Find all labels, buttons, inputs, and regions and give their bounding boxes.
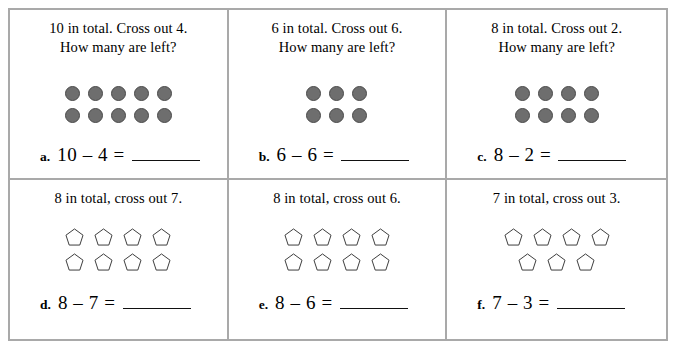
problem-prompt-f: 7 in total, cross out 3. (447, 180, 666, 208)
problem-label-a: a. (40, 149, 50, 165)
answer-blank-d[interactable] (123, 308, 191, 309)
answer-blank-b[interactable] (341, 160, 409, 161)
circle-counter[interactable] (515, 86, 530, 101)
pentagon-counter[interactable] (533, 228, 552, 246)
circle-counter[interactable] (515, 108, 530, 123)
equation-text-c: 8 – 2 = (494, 144, 552, 166)
pentagon-counter[interactable] (371, 228, 390, 246)
circle-counter[interactable] (329, 108, 344, 123)
problem-cell-d: 8 in total, cross out 7. d. 8 – (10, 180, 229, 339)
circle-counter[interactable] (561, 108, 576, 123)
shape-row (65, 253, 171, 271)
shape-group-c (447, 86, 666, 130)
pentagon-counter[interactable] (547, 253, 566, 271)
problem-grid: 10 in total. Cross out 4. How many are l… (10, 10, 666, 339)
pentagon-counter[interactable] (313, 253, 332, 271)
circle-counter[interactable] (538, 108, 553, 123)
pentagon-counter[interactable] (504, 228, 523, 246)
circle-counter[interactable] (134, 108, 149, 123)
circle-counter[interactable] (584, 108, 599, 123)
pentagon-counter[interactable] (518, 253, 537, 271)
equation-b: b. 6 – 6 = (229, 144, 446, 166)
equation-c: c. 8 – 2 = (447, 144, 666, 166)
answer-blank-a[interactable] (132, 160, 200, 161)
pentagon-counter[interactable] (342, 228, 361, 246)
shape-row (306, 86, 367, 101)
problem-cell-f: 7 in total, cross out 3. f. 7 – 3 = (447, 180, 666, 339)
prompt-line-1: 6 in total. Cross out 6. (272, 20, 403, 36)
shape-row (284, 253, 390, 271)
pentagon-counter[interactable] (94, 228, 113, 246)
pentagon-counter[interactable] (65, 228, 84, 246)
problem-prompt-e: 8 in total, cross out 6. (229, 180, 446, 208)
pentagon-counter[interactable] (123, 253, 142, 271)
equation-text-e: 8 – 6 = (275, 292, 333, 314)
pentagon-counter[interactable] (65, 253, 84, 271)
problem-label-e: e. (259, 297, 268, 313)
shape-group-a (10, 86, 227, 130)
shape-group-e (229, 228, 446, 278)
equation-text-a: 10 – 4 = (57, 144, 125, 166)
circle-counter[interactable] (538, 86, 553, 101)
shape-row (65, 228, 171, 246)
pentagon-counter[interactable] (371, 253, 390, 271)
equation-a: a. 10 – 4 = (10, 144, 227, 166)
answer-blank-e[interactable] (340, 308, 408, 309)
circle-counter[interactable] (157, 108, 172, 123)
circle-counter[interactable] (88, 86, 103, 101)
problem-label-d: d. (40, 297, 51, 313)
circle-counter[interactable] (111, 86, 126, 101)
equation-f: f. 7 – 3 = (447, 292, 666, 314)
prompt-line-1: 10 in total. Cross out 4. (49, 20, 187, 36)
prompt-line-1: 8 in total, cross out 7. (55, 190, 183, 206)
circle-counter[interactable] (134, 86, 149, 101)
circle-counter[interactable] (306, 108, 321, 123)
circle-counter[interactable] (584, 86, 599, 101)
prompt-line-1: 7 in total, cross out 3. (493, 190, 621, 206)
answer-blank-c[interactable] (558, 160, 626, 161)
circle-counter[interactable] (352, 86, 367, 101)
circle-counter[interactable] (306, 86, 321, 101)
pentagon-counter[interactable] (152, 253, 171, 271)
circle-counter[interactable] (111, 108, 126, 123)
pentagon-counter[interactable] (284, 253, 303, 271)
prompt-line-1: 8 in total. Cross out 2. (491, 20, 622, 36)
problem-prompt-c: 8 in total. Cross out 2. How many are le… (447, 10, 666, 56)
circle-counter[interactable] (65, 86, 80, 101)
prompt-line-1: 8 in total, cross out 6. (273, 190, 401, 206)
pentagon-counter[interactable] (94, 253, 113, 271)
prompt-line-2: How many are left? (455, 38, 658, 57)
shape-row (65, 86, 172, 101)
pentagon-counter[interactable] (123, 228, 142, 246)
answer-blank-f[interactable] (557, 308, 625, 309)
circle-counter[interactable] (157, 86, 172, 101)
shape-row (504, 228, 610, 246)
problem-label-f: f. (477, 297, 485, 313)
shape-group-b (229, 86, 446, 130)
pentagon-counter[interactable] (284, 228, 303, 246)
shape-row (515, 86, 599, 101)
circle-counter[interactable] (65, 108, 80, 123)
pentagon-counter[interactable] (152, 228, 171, 246)
worksheet-table: 10 in total. Cross out 4. How many are l… (8, 8, 668, 341)
pentagon-counter[interactable] (562, 228, 581, 246)
problem-prompt-d: 8 in total, cross out 7. (10, 180, 227, 208)
circle-counter[interactable] (561, 86, 576, 101)
equation-text-d: 8 – 7 = (58, 292, 116, 314)
circle-counter[interactable] (88, 108, 103, 123)
circle-counter[interactable] (352, 108, 367, 123)
equation-text-f: 7 – 3 = (492, 292, 550, 314)
equation-e: e. 8 – 6 = (229, 292, 446, 314)
pentagon-counter[interactable] (342, 253, 361, 271)
shape-row (518, 253, 595, 271)
shape-row (515, 108, 599, 123)
pentagon-counter[interactable] (591, 228, 610, 246)
equation-d: d. 8 – 7 = (10, 292, 227, 314)
circle-counter[interactable] (329, 86, 344, 101)
pentagon-counter[interactable] (576, 253, 595, 271)
problem-cell-a: 10 in total. Cross out 4. How many are l… (10, 10, 229, 180)
problem-cell-c: 8 in total. Cross out 2. How many are le… (447, 10, 666, 180)
shape-group-f (447, 228, 666, 278)
shape-group-d (10, 228, 227, 278)
pentagon-counter[interactable] (313, 228, 332, 246)
